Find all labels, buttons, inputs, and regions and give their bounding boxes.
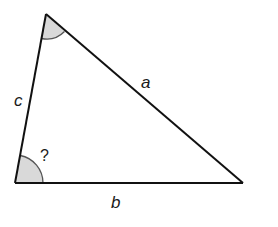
label-unknown-angle: ?: [40, 147, 49, 164]
triangle-diagram: c a b ?: [0, 0, 278, 227]
side-a: [46, 14, 243, 183]
label-side-b: b: [111, 193, 120, 212]
label-side-a: a: [141, 73, 150, 92]
label-side-c: c: [14, 91, 23, 110]
